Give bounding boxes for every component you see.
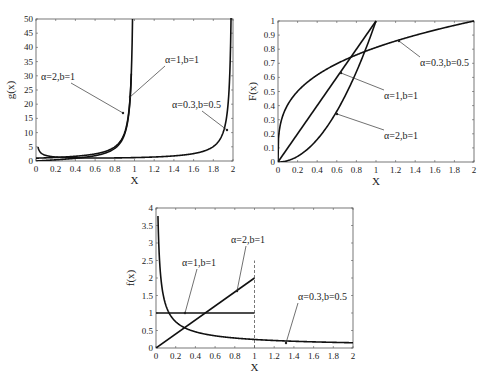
x-axis-label: X xyxy=(131,174,139,186)
x-axis-label: X xyxy=(251,361,259,373)
y-tick-label: 5 xyxy=(29,142,34,152)
x-tick-label: 1.6 xyxy=(429,165,441,175)
x-tick-label: 0 xyxy=(276,165,281,175)
y-tick-label: 25 xyxy=(24,85,34,95)
series-annotation: α=2,b=1 xyxy=(231,234,265,245)
x-tick-label: 0.8 xyxy=(351,165,363,175)
y-axis-label: F(x) xyxy=(246,82,259,101)
x-tick-label: 1.8 xyxy=(449,165,461,175)
x-tick-label: 0.4 xyxy=(190,351,202,361)
y-tick-label: 15 xyxy=(24,113,34,123)
x-tick-label: 0.2 xyxy=(170,351,181,361)
y-tick-label: 35 xyxy=(24,57,34,67)
x-tick-label: 2 xyxy=(351,351,356,361)
y-tick-label: 30 xyxy=(24,71,34,81)
x-tick-label: 1.6 xyxy=(188,164,200,174)
y-tick-label: 1 xyxy=(149,308,154,318)
annotation-arrow xyxy=(71,83,123,113)
y-tick-label: 1 xyxy=(271,16,276,26)
y-tick-label: 40 xyxy=(24,42,34,52)
x-tick-label: 0.4 xyxy=(312,165,324,175)
x-tick-label: 2 xyxy=(231,164,236,174)
series-annotation: α=2,b=1 xyxy=(41,71,75,82)
y-tick-label: 0.7 xyxy=(264,58,276,68)
y-tick-label: 0 xyxy=(149,343,154,353)
series-curve xyxy=(278,21,376,162)
x-tick-label: 0 xyxy=(34,164,39,174)
plot-frame xyxy=(36,19,233,161)
y-tick-label: 45 xyxy=(24,28,34,38)
y-axis-label: f(x) xyxy=(124,269,137,286)
y-tick-label: 0.8 xyxy=(264,44,276,54)
chart-canvas: 00.20.40.60.811.21.41.61.820510152025303… xyxy=(0,0,487,382)
series-annotation: α=1,b=1 xyxy=(165,54,199,65)
x-tick-label: 1.2 xyxy=(149,164,160,174)
y-tick-label: 3.5 xyxy=(142,221,154,231)
series-annotation: α=2,b=1 xyxy=(384,130,418,141)
y-tick-label: 0.5 xyxy=(142,326,154,336)
x-axis-label: X xyxy=(372,175,380,187)
series-curve xyxy=(36,74,131,161)
y-tick-label: 50 xyxy=(24,14,34,24)
annotation-arrow xyxy=(341,73,384,90)
x-tick-label: 1 xyxy=(252,351,257,361)
y-tick-label: 0.9 xyxy=(264,30,276,40)
series-annotation: α=1,b=1 xyxy=(182,257,216,268)
y-axis-label: g(x) xyxy=(4,81,17,100)
x-tick-label: 0.6 xyxy=(209,351,221,361)
x-tick-label: 1.4 xyxy=(168,164,180,174)
y-tick-label: 1.5 xyxy=(142,291,154,301)
y-tick-label: 2.5 xyxy=(142,256,154,266)
plot-frame xyxy=(278,21,474,162)
y-tick-label: 0 xyxy=(29,156,34,166)
series-curve xyxy=(36,19,133,158)
y-tick-label: 0 xyxy=(271,157,276,167)
x-tick-label: 1.4 xyxy=(410,165,422,175)
x-tick-label: 0.6 xyxy=(89,164,101,174)
y-tick-label: 20 xyxy=(24,99,34,109)
hazard-plot: 00.20.40.60.811.21.41.61.820510152025303… xyxy=(4,0,235,186)
y-tick-label: 0.4 xyxy=(264,101,276,111)
x-tick-label: 0.8 xyxy=(229,351,241,361)
y-tick-label: 2 xyxy=(149,273,154,283)
series-curve xyxy=(278,21,474,162)
annotation-arrow xyxy=(337,114,384,130)
series-annotation: α=0.3,b=0.5 xyxy=(420,57,469,68)
y-tick-label: 0.5 xyxy=(264,87,276,97)
y-tick-label: 4 xyxy=(149,203,154,213)
x-tick-label: 0 xyxy=(154,351,159,361)
y-tick-label: 3 xyxy=(149,238,154,248)
pdf-plot: 00.20.40.60.811.21.41.61.8200.511.522.53… xyxy=(124,203,355,373)
x-tick-label: 1.8 xyxy=(208,164,220,174)
x-tick-label: 0.2 xyxy=(292,165,303,175)
x-tick-label: 2 xyxy=(472,165,477,175)
series-annotation: α=1,b=1 xyxy=(384,90,418,101)
y-tick-label: 0.1 xyxy=(264,143,275,153)
y-tick-label: 0.2 xyxy=(264,129,275,139)
x-tick-label: 0.4 xyxy=(70,164,82,174)
x-tick-label: 1 xyxy=(132,164,137,174)
x-tick-label: 1.6 xyxy=(308,351,320,361)
x-tick-label: 1.4 xyxy=(288,351,300,361)
x-tick-label: 1.2 xyxy=(269,351,280,361)
x-tick-label: 0.8 xyxy=(109,164,121,174)
x-tick-label: 0.6 xyxy=(331,165,343,175)
annotation-arrow xyxy=(399,41,420,57)
series-annotation: α=0.3,b=0.5 xyxy=(172,99,221,110)
x-tick-label: 1 xyxy=(374,165,379,175)
cdf-plot: 00.20.40.60.811.21.41.61.8200.10.20.30.4… xyxy=(246,16,476,187)
series-annotation: α=0.3,b=0.5 xyxy=(298,291,347,302)
x-tick-label: 0.2 xyxy=(50,164,61,174)
annotation-arrow xyxy=(286,303,298,343)
x-tick-label: 1.8 xyxy=(328,351,340,361)
annotation-arrow xyxy=(185,269,197,313)
y-tick-label: 0.6 xyxy=(264,72,276,82)
y-tick-label: 10 xyxy=(24,128,34,138)
y-tick-label: 0.3 xyxy=(264,115,276,125)
x-tick-label: 1.2 xyxy=(390,165,401,175)
annotation-arrow xyxy=(130,66,165,97)
annotation-arrow xyxy=(202,111,227,130)
